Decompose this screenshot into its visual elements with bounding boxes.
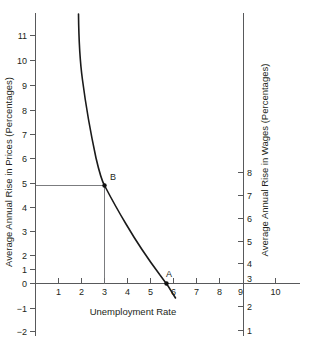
x-tick-label-3: 3 (102, 287, 107, 297)
x-tick-label-10: 10 (270, 287, 280, 297)
x-tick-label-9: 9 (238, 287, 243, 297)
left-tick-label-7: 7 (22, 130, 27, 140)
left-tick-label-3: 3 (22, 227, 27, 237)
point-b-label: B (110, 172, 116, 182)
right-tick-label-8: 8 (247, 168, 252, 178)
left-y-axis-title: Average Annual Rise in Prices (Percentag… (3, 77, 14, 267)
x-axis-title: Unemployment Rate (90, 306, 177, 317)
right-tick-label-7: 7 (247, 191, 252, 201)
left-tick-label-9: 9 (22, 81, 27, 91)
left-tick-label-5: 5 (22, 179, 27, 189)
x-tick-label-4: 4 (125, 287, 130, 297)
left-tick-label-6: 6 (22, 154, 27, 164)
right-tick-label-5: 5 (247, 237, 252, 247)
left-tick-label-4: 4 (22, 203, 27, 213)
left-tick-label-0: 0 (22, 279, 27, 289)
phillips-curve-path (79, 14, 176, 298)
point-a-marker (164, 281, 168, 285)
right-y-axis-title: Average Annual Rise in Wages (Percentage… (259, 64, 270, 257)
left-tick-label-2: 2 (22, 251, 27, 261)
left-tick-label-neg2: −2 (17, 327, 27, 337)
point-a-label: A (166, 269, 172, 279)
left-y-ticks (30, 36, 36, 332)
right-tick-label-3: 3 (247, 274, 252, 284)
right-tick-label-4: 4 (247, 259, 252, 269)
phillips-curve-chart: 11 10 9 8 7 6 5 4 3 2 1 0 −1 −2 8 7 6 5 … (0, 0, 309, 344)
x-tick-label-8: 8 (217, 287, 222, 297)
right-tick-label-1: 1 (247, 326, 252, 336)
point-b-marker (102, 183, 106, 187)
left-tick-label-8: 8 (22, 106, 27, 116)
chart-canvas: 11 10 9 8 7 6 5 4 3 2 1 0 −1 −2 8 7 6 5 … (0, 0, 309, 344)
left-tick-label-11: 11 (18, 31, 27, 41)
x-tick-label-1: 1 (56, 287, 61, 297)
left-tick-label-neg1: −1 (17, 304, 27, 314)
x-tick-label-5: 5 (148, 287, 153, 297)
right-tick-label-2: 2 (247, 302, 252, 312)
x-tick-label-7: 7 (194, 287, 199, 297)
left-tick-label-10: 10 (17, 56, 27, 66)
right-y-ticks (238, 173, 244, 331)
x-tick-label-2: 2 (79, 287, 84, 297)
right-tick-label-6: 6 (247, 214, 252, 224)
left-tick-label-1: 1 (22, 265, 27, 275)
